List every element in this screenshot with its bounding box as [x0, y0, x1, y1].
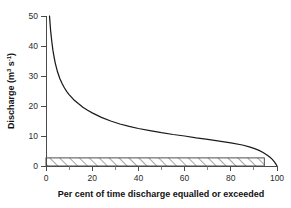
y-tick-label-0: 0: [33, 161, 38, 171]
flow-duration-chart: 0 20 40 60 80 100 Per cent of time disch…: [0, 0, 291, 208]
x-tick-label-20: 20: [87, 173, 97, 183]
y-tick-label-20: 20: [29, 101, 39, 111]
plot-area: [46, 16, 277, 166]
hatched-low-flow-band: [46, 158, 264, 166]
x-tick-label-40: 40: [134, 173, 144, 183]
plot-background: [46, 16, 277, 166]
chart-canvas: 0 20 40 60 80 100 Per cent of time disch…: [0, 0, 291, 208]
y-axis-title-main: Discharge (m: [6, 72, 16, 129]
x-axis-title: Per cent of time discharge equalled or e…: [58, 189, 265, 199]
y-axis-title: Discharge (m3 s-1): [6, 53, 16, 129]
y-tick-label-30: 30: [29, 71, 39, 81]
y-axis-title-mid: s: [6, 61, 16, 69]
x-tick-label-0: 0: [44, 173, 49, 183]
y-axis-title-tail: ): [6, 53, 16, 56]
y-axis: 0 10 20 30 40 50 Discharge (m3 s-1): [6, 11, 46, 171]
x-axis: 0 20 40 60 80 100 Per cent of time disch…: [44, 166, 285, 199]
x-tick-label-100: 100: [270, 173, 284, 183]
y-tick-label-50: 50: [29, 11, 39, 21]
y-tick-label-40: 40: [29, 41, 39, 51]
x-tick-label-60: 60: [180, 173, 190, 183]
x-tick-label-80: 80: [226, 173, 236, 183]
y-tick-label-10: 10: [29, 131, 39, 141]
